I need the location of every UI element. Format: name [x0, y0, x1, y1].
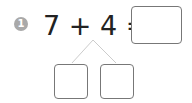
split-box-right[interactable]: [100, 64, 134, 99]
split-box-left[interactable]: [54, 64, 88, 99]
number-bond-branches: [0, 0, 192, 103]
